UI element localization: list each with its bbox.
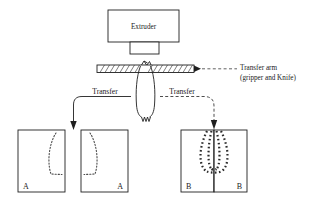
mold-b-left-label: B <box>186 182 191 191</box>
transfer-arm-bar <box>97 65 194 73</box>
parison <box>136 66 155 122</box>
diagram-canvas: Extruder Transfer arm (gripper and Knife… <box>0 0 315 211</box>
transfer-right-label: Transfer <box>169 87 195 96</box>
transfer-arm-label-line2: (gripper and Knife) <box>240 74 296 82</box>
transfer-left-arrow-path <box>74 97 132 123</box>
transfer-right-arrow-path <box>160 97 214 122</box>
blow-molding-process-diagram: Extruder Transfer arm (gripper and Knife… <box>0 0 315 211</box>
mold-b-right-label: B <box>237 182 242 191</box>
mold-a-right-label: A <box>117 182 123 191</box>
transfer-right-arrowhead <box>211 120 217 130</box>
transfer-left-arrowhead <box>70 121 76 130</box>
gripper-knife-notch <box>142 61 152 65</box>
extruder-label: Extruder <box>131 23 157 31</box>
transfer-left-label: Transfer <box>92 87 118 96</box>
transfer-arm-label-line1: Transfer arm <box>240 64 277 72</box>
extruder-die-block <box>130 42 159 54</box>
parison-pinch-bottom <box>142 117 151 122</box>
mold-a-left-label: A <box>23 182 29 191</box>
transfer-arm-direction-arrowhead <box>194 66 201 72</box>
